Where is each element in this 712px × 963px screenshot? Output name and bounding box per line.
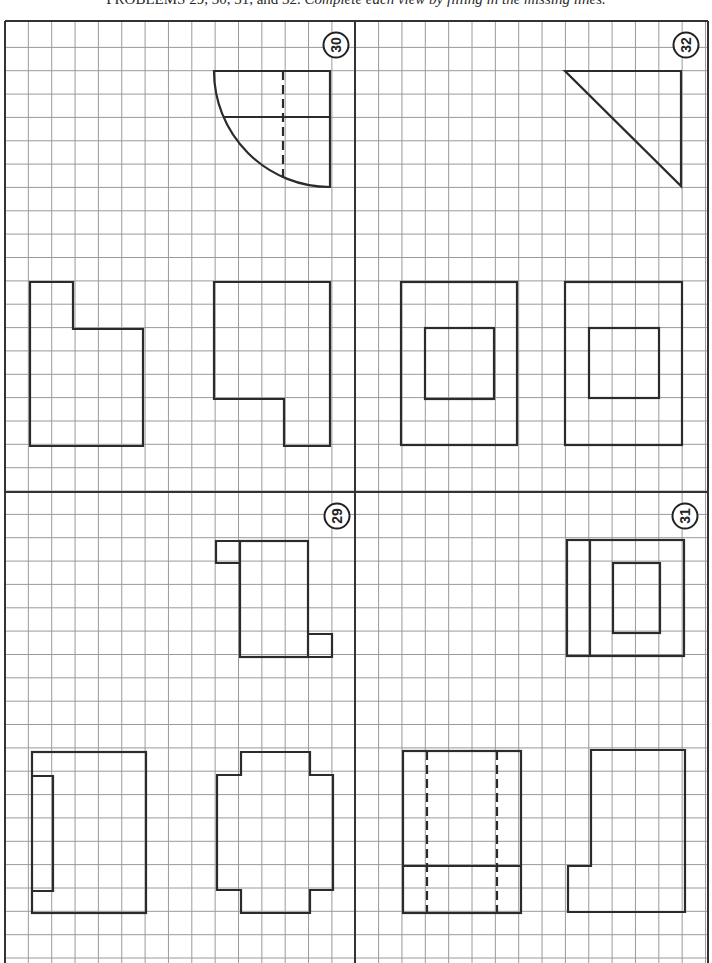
problem-31-top-view (567, 540, 684, 656)
problem-32-badge: 32 (674, 33, 699, 58)
problem-31 (403, 540, 685, 913)
problem-30-top-view (214, 71, 330, 187)
problem-31-front-view (403, 751, 521, 913)
problem-32-top-view (565, 71, 681, 186)
graph-paper-sheet: 30 32 29 31 (0, 0, 712, 963)
svg-text:29: 29 (329, 508, 345, 524)
problem-29 (32, 541, 333, 913)
problem-29-badge: 29 (325, 504, 350, 529)
problem-29-top-view (216, 541, 332, 657)
problem-30-badge: 30 (324, 33, 349, 58)
svg-text:30: 30 (328, 37, 344, 53)
svg-text:31: 31 (677, 508, 693, 524)
problem-29-front-view (32, 752, 146, 913)
problem-29-side-view (217, 752, 333, 913)
svg-text:32: 32 (678, 37, 694, 53)
problem-31-badge: 31 (673, 504, 698, 529)
